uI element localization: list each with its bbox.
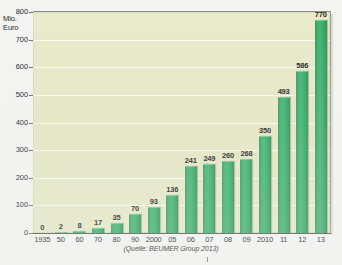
bar — [240, 159, 252, 233]
y-tick-label: 800 — [0, 8, 28, 16]
y-tick-label: 400 — [0, 119, 28, 127]
gridline — [33, 40, 330, 41]
bar-highlight — [166, 195, 178, 196]
bar — [315, 20, 327, 233]
bar-highlight — [240, 159, 252, 160]
bar-highlight — [148, 207, 160, 208]
plot-drop-shadow — [331, 14, 334, 235]
x-tick-label: 13 — [307, 235, 335, 244]
bar-highlight — [73, 231, 85, 232]
plot-area — [33, 12, 330, 233]
bar-value-label: 35 — [103, 214, 131, 222]
bar — [203, 164, 215, 233]
page-marker — [207, 257, 208, 262]
bar-highlight — [296, 71, 308, 72]
bar-highlight — [203, 164, 215, 165]
bar-highlight — [259, 136, 271, 137]
bar-value-label: 268 — [232, 150, 260, 158]
x-axis-rule — [33, 233, 331, 234]
source-note: (Quelle: BEUMER Group 2013) — [0, 245, 342, 252]
y-tick-label: 200 — [0, 174, 28, 182]
plot-right-edge — [330, 12, 331, 233]
bar-chart: Mio. Euro 8007006005004003002001000 0281… — [0, 0, 342, 265]
bar-highlight — [278, 97, 290, 98]
y-tick-label: 700 — [0, 36, 28, 44]
y-tick-label: 600 — [0, 63, 28, 71]
bar-highlight — [129, 214, 141, 215]
bar-highlight — [185, 166, 197, 167]
bar-value-label: 93 — [140, 198, 168, 206]
bar — [222, 161, 234, 233]
y-axis-title: Mio. Euro — [3, 15, 31, 32]
bar — [111, 223, 123, 233]
bar — [129, 214, 141, 233]
bar-value-label: 586 — [288, 62, 316, 70]
bar-highlight — [92, 228, 104, 229]
bar — [148, 207, 160, 233]
gridline — [33, 67, 330, 68]
bar-value-label: 136 — [158, 186, 186, 194]
y-tick-label: 300 — [0, 146, 28, 154]
y-tick-label: 500 — [0, 91, 28, 99]
bar-value-label: 350 — [251, 127, 279, 135]
y-tick-label: 100 — [0, 201, 28, 209]
bar-highlight — [222, 161, 234, 162]
bar — [166, 195, 178, 233]
bar-highlight — [315, 20, 327, 21]
bar — [185, 166, 197, 233]
bar — [296, 71, 308, 233]
y-tick-label: 0 — [0, 229, 28, 237]
bar — [278, 97, 290, 233]
bar — [259, 136, 271, 233]
bar-highlight — [111, 223, 123, 224]
bar-value-label: 770 — [307, 11, 335, 19]
y-axis-title-line-2: Euro — [3, 24, 31, 33]
bar-value-label: 493 — [270, 88, 298, 96]
